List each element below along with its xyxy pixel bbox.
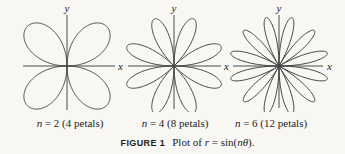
rose-plot-n6: x y: [224, 0, 342, 112]
caption-part: Plot of: [172, 136, 204, 148]
figure-number-tag: FIGURE 1: [121, 138, 166, 148]
y-axis-label: y: [171, 2, 177, 14]
y-axis-label: y: [276, 2, 282, 14]
y-axis-label: y: [64, 2, 70, 14]
x-axis-label: x: [326, 60, 332, 72]
figure: x y x y x y n = 2 (4 petals) n = 4 (8 pe…: [0, 0, 345, 154]
caption-part: ).: [248, 136, 254, 148]
panel-label-text: = 4 (8 petals): [147, 117, 208, 129]
rose-plot-n2: x y: [10, 0, 125, 112]
figure-caption: FIGURE 1Plot of r = sin(nθ).: [30, 136, 345, 148]
caption-part: = sin(: [209, 136, 237, 148]
panel-label-text: = 6 (12 petals): [240, 117, 307, 129]
panel-label-text: = 2 (4 petals): [42, 117, 103, 129]
rose-plot-n4: x y: [120, 0, 232, 112]
caption-text: Plot of r = sin(nθ).: [172, 136, 254, 148]
panel-label-n6: n = 6 (12 petals): [206, 116, 336, 130]
